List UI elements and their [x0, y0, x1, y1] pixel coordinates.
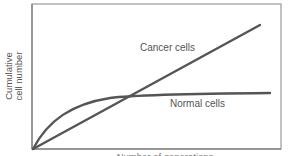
y-axis-label: Cumulative cell number — [4, 36, 24, 116]
y-axis-label-line2: cell number — [14, 36, 24, 116]
normal-cells-label: Normal cells — [170, 98, 225, 109]
chart-plot-area — [0, 0, 288, 156]
chart-frame — [32, 4, 281, 149]
x-axis-label: Number of generations — [100, 151, 230, 156]
normal-cells-line — [33, 93, 270, 149]
cancer-cells-label: Cancer cells — [140, 42, 195, 53]
